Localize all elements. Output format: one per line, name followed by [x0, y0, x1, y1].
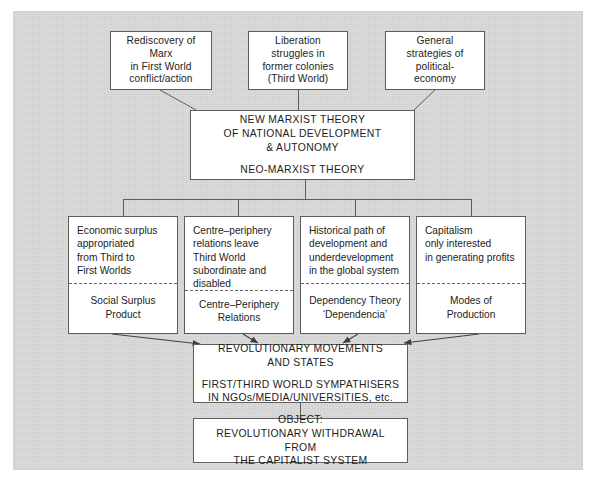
concept-label: Modes of Production: [417, 284, 525, 333]
outcome-node-object[interactable]: OBJECT: REVOLUTIONARY WITHDRAWAL FROM TH…: [193, 418, 408, 463]
source-node-body: Liberation struggles in former colonies …: [249, 32, 347, 89]
concept-proposition-text: Centre–periphery relations leave Third W…: [193, 224, 285, 290]
concept-proposition: Centre–periphery relations leave Third W…: [185, 217, 293, 290]
concept-label-text: Modes of Production: [447, 294, 496, 321]
theory-node-secondary-text: NEO-MARXIST THEORY: [240, 163, 364, 177]
concept-label-text: Social Surplus Product: [90, 294, 155, 321]
outcome-node-secondary-text: FIRST/THIRD WORLD SYMPATHISERS IN NGOs/M…: [202, 378, 400, 405]
source-node-body: Rediscovery of Marx in First World confl…: [111, 32, 211, 89]
concept-label: Social Surplus Product: [69, 284, 177, 333]
diagram-root: Rediscovery of Marx in First World confl…: [0, 0, 596, 497]
source-node-text: Liberation struggles in former colonies …: [262, 35, 333, 86]
concept-label: Centre–Periphery Relations: [185, 291, 293, 333]
concept-label: Dependency Theory ‘Dependencia’: [301, 284, 409, 333]
source-node-text: Rediscovery of Marx in First World confl…: [127, 35, 196, 86]
source-node-body: General strategies of political- economy: [386, 32, 484, 89]
concept-node-body: Economic surplus appropriated from Third…: [69, 217, 177, 333]
source-node-liberation-struggles[interactable]: Liberation struggles in former colonies …: [248, 31, 348, 90]
outcome-node-primary-text: REVOLUTIONARY MOVEMENTS AND STATES: [218, 342, 383, 369]
theory-node-primary-text: NEW MARXIST THEORY OF NATIONAL DEVELOPME…: [224, 113, 382, 154]
concept-label-text: Centre–Periphery Relations: [199, 298, 279, 325]
concept-node-body: Capitalism only interested in generating…: [417, 217, 525, 333]
concept-proposition-text: Economic surplus appropriated from Third…: [77, 224, 169, 277]
source-node-general-strategies[interactable]: General strategies of political- economy: [385, 31, 485, 90]
concept-proposition-text: Historical path of development and under…: [309, 224, 401, 277]
outcome-node-primary-text: OBJECT:: [278, 413, 323, 427]
source-node-rediscovery-of-marx[interactable]: Rediscovery of Marx in First World confl…: [110, 31, 212, 90]
source-node-text: General strategies of political- economy: [407, 35, 464, 86]
concept-node-modes-of-production[interactable]: Capitalism only interested in generating…: [416, 216, 526, 334]
concept-node-body: Centre–periphery relations leave Third W…: [185, 217, 293, 333]
outcome-node-secondary-text: REVOLUTIONARY WITHDRAWAL FROM THE CAPITA…: [200, 427, 401, 468]
theory-node-neo-marxist[interactable]: NEW MARXIST THEORY OF NATIONAL DEVELOPME…: [190, 110, 415, 180]
concept-node-dependency-theory[interactable]: Historical path of development and under…: [300, 216, 410, 334]
outcome-node-revolutionary-movements[interactable]: REVOLUTIONARY MOVEMENTS AND STATES FIRST…: [193, 344, 408, 403]
concept-proposition: Historical path of development and under…: [301, 217, 409, 283]
concept-proposition: Capitalism only interested in generating…: [417, 217, 525, 283]
concept-proposition-text: Capitalism only interested in generating…: [425, 224, 517, 264]
outcome-node-body: OBJECT: REVOLUTIONARY WITHDRAWAL FROM TH…: [194, 419, 407, 462]
theory-node-body: NEW MARXIST THEORY OF NATIONAL DEVELOPME…: [191, 111, 414, 179]
concept-node-body: Historical path of development and under…: [301, 217, 409, 333]
concept-node-social-surplus-product[interactable]: Economic surplus appropriated from Third…: [68, 216, 178, 334]
concept-proposition: Economic surplus appropriated from Third…: [69, 217, 177, 283]
concept-node-centre-periphery-relations[interactable]: Centre–periphery relations leave Third W…: [184, 216, 294, 334]
outcome-node-body: REVOLUTIONARY MOVEMENTS AND STATES FIRST…: [194, 345, 407, 402]
concept-label-text: Dependency Theory ‘Dependencia’: [309, 294, 401, 321]
